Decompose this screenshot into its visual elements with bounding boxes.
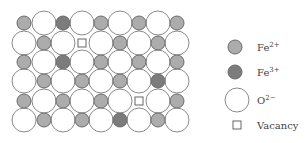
fe2-ion: [170, 55, 184, 69]
oxygen-ion: [12, 31, 36, 55]
oxygen-ion: [51, 108, 75, 132]
fe2-ion: [113, 74, 127, 88]
oxygen-ion: [89, 31, 113, 55]
legend-item-o2: O2−: [225, 88, 276, 112]
fe3-symbol: Fe: [257, 67, 269, 78]
oxygen-ion: [32, 89, 56, 113]
oxygen-ion: [127, 31, 151, 55]
oxygen-ion: [89, 69, 113, 93]
oxygen-ion: [32, 11, 56, 35]
fe2-ion: [94, 94, 108, 108]
fe2-ion: [94, 16, 108, 30]
fe2-symbol: Fe: [257, 42, 269, 53]
oxygen-ion: [70, 50, 94, 74]
oxygen-ion: [146, 89, 170, 113]
oxygen-ion: [165, 69, 189, 93]
oxygen-ion: [51, 69, 75, 93]
fe2-ion: [170, 94, 184, 108]
fe2-ion: [132, 16, 146, 30]
legend-label-o2: O2−: [257, 94, 276, 106]
oxygen-ion: [108, 50, 132, 74]
vacancy: [135, 97, 143, 105]
oxygen-ion: [108, 11, 132, 35]
fe2-ion: [75, 74, 89, 88]
fe2-ion: [17, 94, 31, 108]
oxygen-ion: [127, 108, 151, 132]
fe2-ion: [17, 55, 31, 69]
fe2-ion: [37, 113, 51, 127]
fe2-ion: [94, 55, 108, 69]
fe2-ion: [151, 36, 165, 50]
fe2-ion: [113, 36, 127, 50]
oxygen-ion: [89, 108, 113, 132]
fe2-ion: [37, 36, 51, 50]
oxygen-ion: [165, 108, 189, 132]
oxygen-ion: [70, 11, 94, 35]
oxygen-ion: [108, 89, 132, 113]
fe3-ion: [56, 16, 70, 30]
vacancy: [78, 39, 86, 47]
legend-label-vacancy: Vacancy: [256, 120, 299, 131]
oxygen-ion: [165, 31, 189, 55]
o2-charge: 2−: [265, 94, 275, 102]
oxygen-ion: [70, 89, 94, 113]
defect-lattice-diagram: Fe2+ Fe3+ O2− Vacancy: [0, 0, 306, 143]
fe3-ion: [151, 74, 165, 88]
oxygen-ion: [146, 11, 170, 35]
fe3-ion: [113, 113, 127, 127]
fe3-ion: [56, 55, 70, 69]
legend-label-fe3: Fe3+: [257, 66, 280, 78]
oxygen-ion: [12, 69, 36, 93]
oxygen-ion: [51, 31, 75, 55]
oxygen-ion: [146, 50, 170, 74]
fe2-ion: [151, 113, 165, 127]
legend-item-fe2: Fe2+: [228, 40, 280, 54]
fe2-ion: [75, 113, 89, 127]
fe2-ion-icon: [228, 40, 242, 54]
oxygen-ion: [12, 108, 36, 132]
fe3-charge: 3+: [269, 66, 279, 74]
vacancy-icon: [233, 121, 241, 129]
fe2-ion: [170, 16, 184, 30]
crystal-lattice: [12, 11, 189, 132]
legend-item-vacancy: Vacancy: [233, 120, 299, 131]
oxygen-ion: [127, 69, 151, 93]
fe2-ion: [17, 16, 31, 30]
legend: Fe2+ Fe3+ O2− Vacancy: [225, 40, 299, 131]
o2-symbol: O: [257, 95, 265, 106]
fe2-charge: 2+: [269, 41, 279, 49]
oxygen-ion: [32, 50, 56, 74]
fe2-ion: [37, 74, 51, 88]
legend-label-fe2: Fe2+: [257, 41, 280, 53]
fe3-ion-icon: [228, 65, 242, 79]
legend-item-fe3: Fe3+: [228, 65, 280, 79]
fe2-ion: [56, 94, 70, 108]
fe2-ion: [132, 55, 146, 69]
oxygen-ion-icon: [225, 88, 249, 112]
